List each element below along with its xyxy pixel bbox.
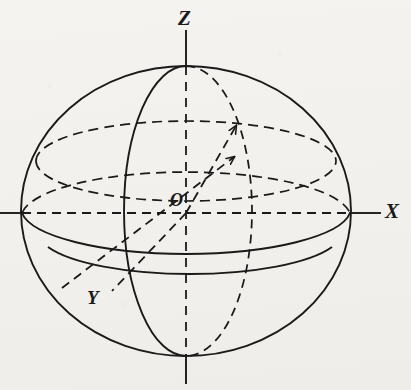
origin-label: O [170,191,183,209]
front-meridian-solid [124,66,186,356]
back-meridian-dashed [186,66,252,356]
front-meridian-back-dashed [186,66,248,356]
sphere-diagram-figure: Z X Y O [0,0,411,390]
y-axis-dashed-near [112,213,186,291]
axis-label-z: Z [178,8,191,29]
sphere-wireframe-svg [0,0,411,390]
axis-label-y: Y [87,288,99,307]
lower-latitude-front-solid [48,247,332,274]
axis-label-x: X [385,201,399,222]
diagonal-chord-dashed [62,157,234,288]
y-axis-dashed-far [186,126,236,213]
